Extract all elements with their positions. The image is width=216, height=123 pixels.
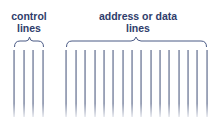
address-data-line [150,50,151,117]
address-data-line [140,50,141,117]
address-data-line [178,50,179,117]
address-data-line [206,50,207,117]
control-line [13,50,14,117]
address-brace-icon [67,37,207,47]
control-line [32,50,33,117]
address-data-line [103,50,104,117]
address-data-line [112,50,113,117]
control-line [23,50,24,117]
address-data-line [168,50,169,117]
diagram-graphics [0,0,216,123]
address-data-line [159,50,160,117]
address-data-line [84,50,85,117]
address-data-line [196,50,197,117]
signal-lines [13,50,207,117]
control-line [42,50,43,117]
address-data-line [65,50,66,117]
address-data-line [187,50,188,117]
address-data-line [75,50,76,117]
address-data-line [94,50,95,117]
address-data-line [122,50,123,117]
control-brace-icon [15,37,44,47]
address-data-line [131,50,132,117]
bus-lines-diagram: control lines address or data lines [0,0,216,123]
